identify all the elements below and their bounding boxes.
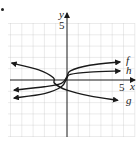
function-graph: y 5 x 5 f h g — [0, 0, 140, 144]
y-tick-label: 5 — [59, 19, 65, 31]
curve-label-g: g — [126, 94, 132, 106]
curves — [12, 62, 120, 100]
x-axis-label: x — [129, 80, 135, 92]
curve-label-h: h — [126, 64, 132, 76]
x-tick-label: 5 — [119, 81, 125, 93]
